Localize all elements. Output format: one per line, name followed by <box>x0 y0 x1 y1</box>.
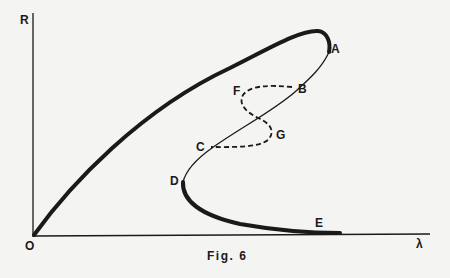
point-label-c: C <box>196 141 205 153</box>
point-label-g: G <box>276 129 285 141</box>
point-label-e: E <box>315 217 323 229</box>
point-label-d: D <box>170 175 179 187</box>
bifurcation-diagram <box>0 0 450 278</box>
point-label-a: A <box>331 43 340 55</box>
y-axis-label: R <box>20 14 29 26</box>
figure: R O λ A B F G C D E Fig. 6 <box>0 0 450 278</box>
origin-label: O <box>25 240 34 252</box>
figure-caption: Fig. 6 <box>207 249 247 263</box>
point-label-f: F <box>233 85 240 97</box>
x-axis <box>33 234 430 236</box>
x-axis-label: λ <box>416 238 423 250</box>
point-label-b: B <box>298 83 307 95</box>
